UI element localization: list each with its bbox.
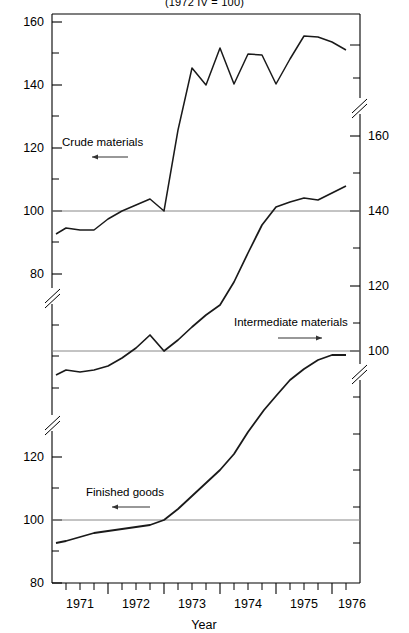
left-tick-140: 140	[23, 78, 44, 92]
left-tick-bottom-80: 80	[30, 576, 44, 590]
x-tick-1971: 1971	[66, 597, 94, 611]
right-tick-100: 100	[368, 344, 389, 358]
intermediate-materials-arrow-icon	[278, 336, 322, 341]
left-tick-80: 80	[30, 267, 44, 281]
left-tick-120: 120	[23, 141, 44, 155]
x-tick-1973: 1973	[178, 597, 206, 611]
series-intermediate-materials	[56, 186, 346, 375]
series-finished-goods	[56, 355, 346, 543]
x-tick-1975: 1975	[290, 597, 318, 611]
reference-lines	[52, 211, 360, 520]
x-tick-1972: 1972	[122, 597, 150, 611]
finished-goods-arrow-icon	[112, 505, 150, 510]
right-tick-160: 160	[368, 129, 389, 143]
right-axis-ticks-lower	[353, 397, 360, 543]
series-label-crude-materials: Crude materials	[62, 136, 143, 148]
left-tick-bottom-100: 100	[23, 513, 44, 527]
x-axis-title: Year	[191, 618, 216, 632]
left-axis-top	[52, 22, 62, 274]
x-tick-1974: 1974	[234, 597, 262, 611]
series-label-intermediate-materials: Intermediate materials	[234, 316, 348, 328]
right-tick-120: 120	[368, 279, 389, 293]
right-axis-ticks-upper	[350, 45, 360, 78]
left-tick-bottom-120: 120	[23, 450, 44, 464]
left-tick-160: 160	[23, 15, 44, 29]
crude-materials-arrow-icon	[92, 155, 128, 160]
right-tick-140: 140	[368, 204, 389, 218]
x-tick-1976: 1976	[338, 597, 366, 611]
left-axis-mid	[52, 325, 59, 388]
chart-container: (1972 IV = 100)	[0, 0, 409, 633]
right-axis-ticks-main	[350, 136, 360, 351]
series-label-finished-goods: Finished goods	[86, 486, 164, 498]
series-crude-materials	[56, 36, 346, 234]
chart-svg: 160 140 120 100 80 120 100 80 160 140 12…	[0, 0, 409, 633]
left-tick-100: 100	[23, 204, 44, 218]
x-axis-ticks	[66, 583, 346, 594]
